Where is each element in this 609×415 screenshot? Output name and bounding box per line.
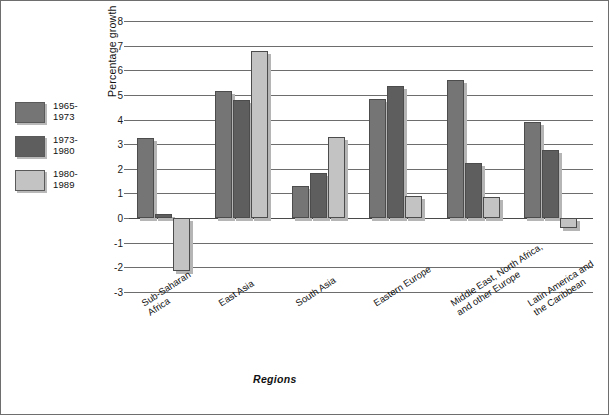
y-tick-mark [124,169,129,170]
gridline [129,243,593,244]
y-tick-label: 6 [117,65,123,76]
bar [292,186,309,218]
x-axis-title: Regions [253,373,297,385]
legend-swatch-1973-1980 [15,136,45,157]
bar [173,218,190,271]
y-tick-mark [124,21,129,22]
y-tick-mark [124,70,129,71]
y-tick-label: 0 [117,213,123,224]
bar [310,173,327,219]
gridline [129,218,593,219]
y-tick-mark [124,218,129,219]
y-tick-label: 4 [117,114,123,125]
chart-figure: 1965- 1973 1973- 1980 1980- 1989 Percent… [0,0,609,415]
y-tick-mark [124,267,129,268]
bar [328,137,345,218]
chart-legend: 1965- 1973 1973- 1980 1980- 1989 [15,101,107,203]
bar [369,99,386,218]
bar [542,150,559,218]
legend-item: 1980- 1989 [15,169,107,195]
bar [233,100,250,218]
gridline [129,21,593,22]
bar [465,163,482,218]
bar [251,51,268,219]
y-tick-label: 2 [117,163,123,174]
bar [387,86,404,218]
y-tick-mark [124,193,129,194]
gridline [129,120,593,121]
bar [483,197,500,218]
gridline [129,46,593,47]
legend-swatch-1965-1973 [15,102,45,123]
y-tick-label: 8 [117,16,123,27]
bar [155,214,172,218]
gridline [129,292,593,293]
bar [560,218,577,228]
y-tick-label: 7 [117,40,123,51]
legend-item: 1965- 1973 [15,101,107,127]
y-tick-mark [124,95,129,96]
legend-label-1973-1980: 1973- 1980 [53,135,78,156]
y-tick-label: 3 [117,139,123,150]
gridline [129,95,593,96]
y-tick-mark [124,243,129,244]
bar [215,91,232,218]
y-tick-label: -1 [114,237,123,248]
y-tick-label: -2 [114,262,123,273]
bar [137,138,154,218]
legend-label-1980-1989: 1980- 1989 [53,169,78,190]
y-axis-title: Percentage growth [106,83,118,97]
legend-swatch-1980-1989 [15,170,45,191]
y-tick-mark [124,120,129,121]
legend-item: 1973- 1980 [15,135,107,161]
y-tick-label: 1 [117,188,123,199]
y-tick-label: 5 [117,89,123,100]
y-tick-label: -3 [114,287,123,298]
bar [405,196,422,218]
bar [447,80,464,218]
gridline [129,70,593,71]
y-tick-mark [124,292,129,293]
y-tick-mark [124,144,129,145]
legend-label-1965-1973: 1965- 1973 [53,101,78,122]
bar [524,122,541,218]
y-tick-mark [124,46,129,47]
